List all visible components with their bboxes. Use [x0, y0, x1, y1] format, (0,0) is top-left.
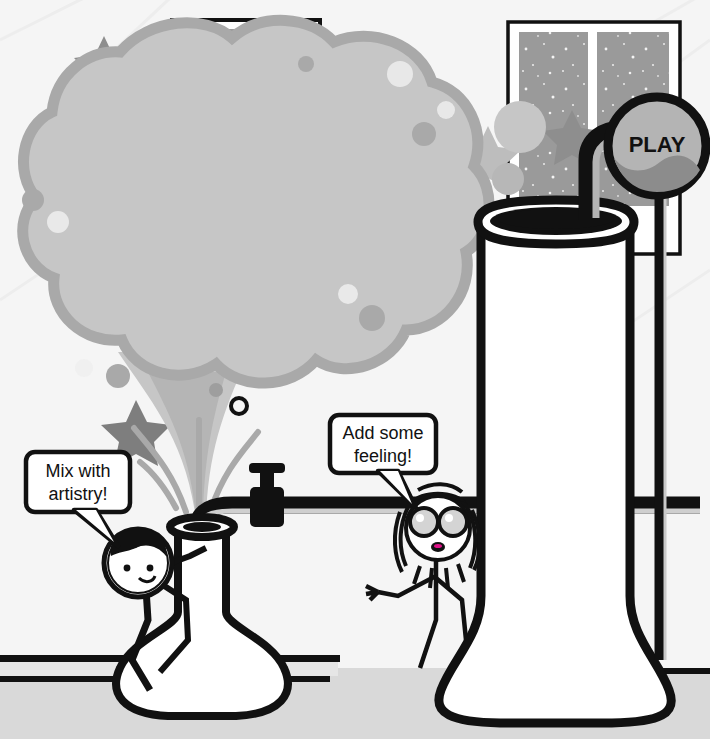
play-knob-label: PLAY [629, 132, 686, 157]
word-cloud-blob [22, 20, 489, 388]
girl-speech-line-2: feeling! [354, 446, 412, 466]
boy-speech-line-1: Mix with [45, 461, 110, 481]
lab-illustration: PLAY Mix with artistry! [0, 0, 710, 739]
girl-speech-line-1: Add some [342, 423, 423, 443]
boy-speech-line-2: artistry! [48, 484, 107, 504]
pipe-valve[interactable] [249, 463, 285, 527]
illustration-scene: PLAY Mix with artistry! [0, 0, 710, 739]
